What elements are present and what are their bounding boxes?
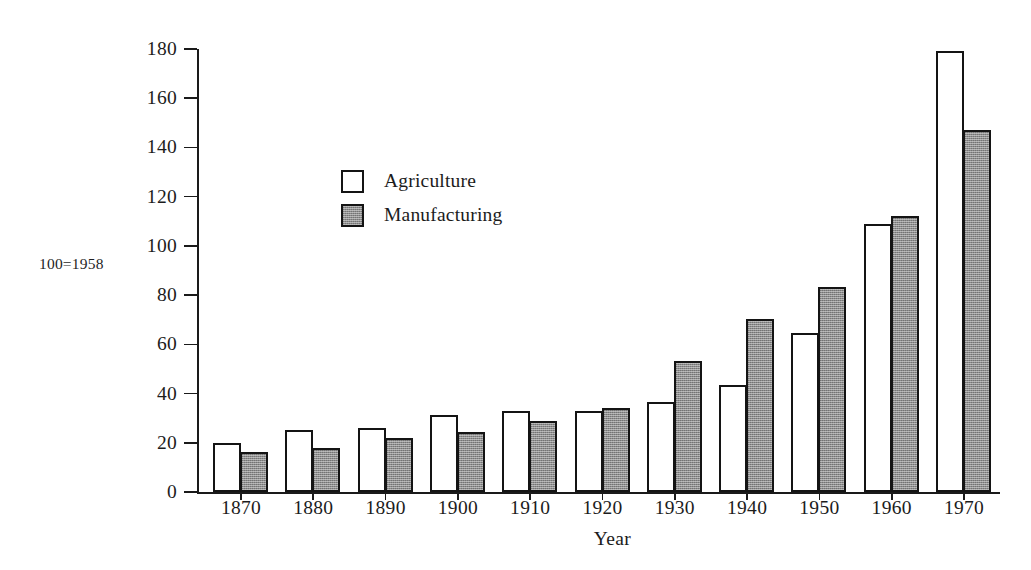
y-axis-tick-label: 180 <box>147 38 177 60</box>
bar-manufacturing <box>385 438 413 492</box>
x-axis-tick-label: 1870 <box>221 497 261 519</box>
x-axis-tick-label: 1960 <box>872 497 912 519</box>
bar-group <box>285 49 341 492</box>
bar-manufacturing <box>457 432 485 492</box>
y-axis-tick <box>184 97 197 99</box>
plot-area: 020406080100120140160180 <box>197 49 1000 492</box>
bar-manufacturing <box>891 216 919 492</box>
y-axis-tick <box>184 245 197 247</box>
bar-group <box>791 49 847 492</box>
bar-group <box>936 49 992 492</box>
x-axis-tick-label: 1940 <box>727 497 767 519</box>
chart-legend: Agriculture Manufacturing <box>341 164 502 232</box>
bar-agriculture <box>358 428 386 492</box>
bar-series-container <box>197 49 1000 492</box>
bar-agriculture <box>575 411 603 492</box>
bar-agriculture <box>430 415 458 492</box>
x-axis-tick-label: 1950 <box>799 497 839 519</box>
y-axis-tick-label: 40 <box>157 383 177 405</box>
y-axis-tick <box>184 491 197 493</box>
legend-swatch-manufacturing-icon <box>341 204 364 227</box>
y-axis-tick <box>184 48 197 50</box>
bar-agriculture <box>285 430 313 492</box>
y-axis-tick-label: 100 <box>147 235 177 257</box>
bar-group <box>575 49 631 492</box>
bar-group <box>358 49 414 492</box>
bar-group <box>719 49 775 492</box>
bar-group <box>502 49 558 492</box>
legend-label-agriculture: Agriculture <box>384 170 476 192</box>
bar-group <box>864 49 920 492</box>
bar-manufacturing <box>674 361 702 492</box>
bar-manufacturing <box>529 421 557 492</box>
bar-manufacturing <box>818 287 846 492</box>
y-axis-tick-label: 0 <box>167 481 177 503</box>
x-axis-tick-label: 1880 <box>293 497 333 519</box>
y-axis-tick-label: 60 <box>157 333 177 355</box>
bar-agriculture <box>647 402 675 492</box>
y-axis-tick <box>184 294 197 296</box>
x-axis-tick-label: 1970 <box>944 497 984 519</box>
index-base-note: 100=1958 <box>39 255 104 273</box>
x-axis-tick-labels: 1870188018901900191019201930194019501960… <box>197 497 1000 525</box>
legend-label-manufacturing: Manufacturing <box>384 204 502 226</box>
bar-manufacturing <box>963 130 991 492</box>
y-axis-tick <box>184 393 197 395</box>
y-axis-tick-label: 160 <box>147 87 177 109</box>
y-axis-tick-label: 140 <box>147 136 177 158</box>
legend-item-manufacturing: Manufacturing <box>341 198 502 232</box>
bar-chart-figure: 100=1958 020406080100120140160180 187018… <box>0 0 1031 570</box>
y-axis-tick-label: 20 <box>157 432 177 454</box>
y-axis-tick <box>184 442 197 444</box>
bar-group <box>647 49 703 492</box>
y-axis-tick-label: 80 <box>157 284 177 306</box>
bar-group <box>430 49 486 492</box>
legend-swatch-agriculture-icon <box>341 170 364 193</box>
bar-manufacturing <box>746 319 774 493</box>
x-axis-tick-label: 1920 <box>582 497 622 519</box>
bar-agriculture <box>936 51 964 492</box>
y-axis-tick <box>184 147 197 149</box>
x-axis-title: Year <box>0 528 1031 550</box>
bar-agriculture <box>502 411 530 492</box>
x-axis-tick-label: 1910 <box>510 497 550 519</box>
bar-group <box>213 49 269 492</box>
bar-agriculture <box>791 333 819 492</box>
bar-agriculture <box>864 224 892 492</box>
legend-item-agriculture: Agriculture <box>341 164 502 198</box>
bar-manufacturing <box>312 448 340 492</box>
x-axis-title-text: Year <box>594 528 632 549</box>
bar-manufacturing <box>240 452 268 492</box>
y-axis-tick <box>184 344 197 346</box>
x-axis-tick-label: 1900 <box>438 497 478 519</box>
y-axis-tick-label: 120 <box>147 186 177 208</box>
bar-agriculture <box>213 443 241 492</box>
x-axis-tick-label: 1930 <box>655 497 695 519</box>
y-axis-tick <box>184 196 197 198</box>
bar-agriculture <box>719 385 747 492</box>
bar-manufacturing <box>602 408 630 492</box>
x-axis-tick-label: 1890 <box>365 497 405 519</box>
